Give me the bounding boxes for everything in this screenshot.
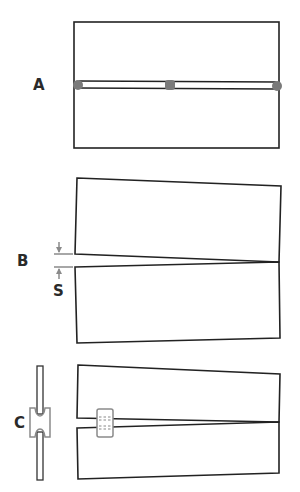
panel-b-upper-half [75, 178, 281, 262]
weld-dot-left [73, 80, 83, 90]
gap-arrow-bottom-icon [56, 268, 62, 274]
clip-side-view [30, 366, 50, 480]
spacer-clip [97, 409, 113, 437]
label-c: C [14, 414, 25, 432]
panel-b-lower-half [75, 262, 280, 343]
side-view-upper-plate [37, 366, 43, 414]
label-a: A [33, 76, 45, 94]
label-s: S [53, 282, 64, 300]
figure-canvas: A B S C [0, 0, 300, 492]
label-b: B [17, 252, 28, 270]
side-view-lower-plate [37, 432, 43, 480]
panel-a-plate [74, 22, 279, 148]
panel-c [30, 365, 280, 480]
weld-dot-right [272, 81, 282, 91]
panel-b [54, 178, 281, 343]
panel-a-slot-bottom [79, 88, 276, 89]
weld-dot-middle [165, 80, 175, 90]
gap-arrow-top-icon [56, 247, 62, 253]
panel-a [73, 22, 282, 148]
panel-a-slot-top [79, 81, 276, 82]
